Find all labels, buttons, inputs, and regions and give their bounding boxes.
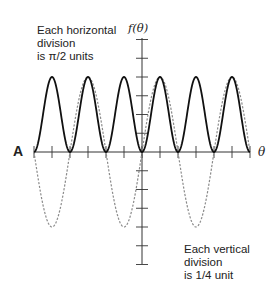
plot-area: [0, 0, 278, 284]
